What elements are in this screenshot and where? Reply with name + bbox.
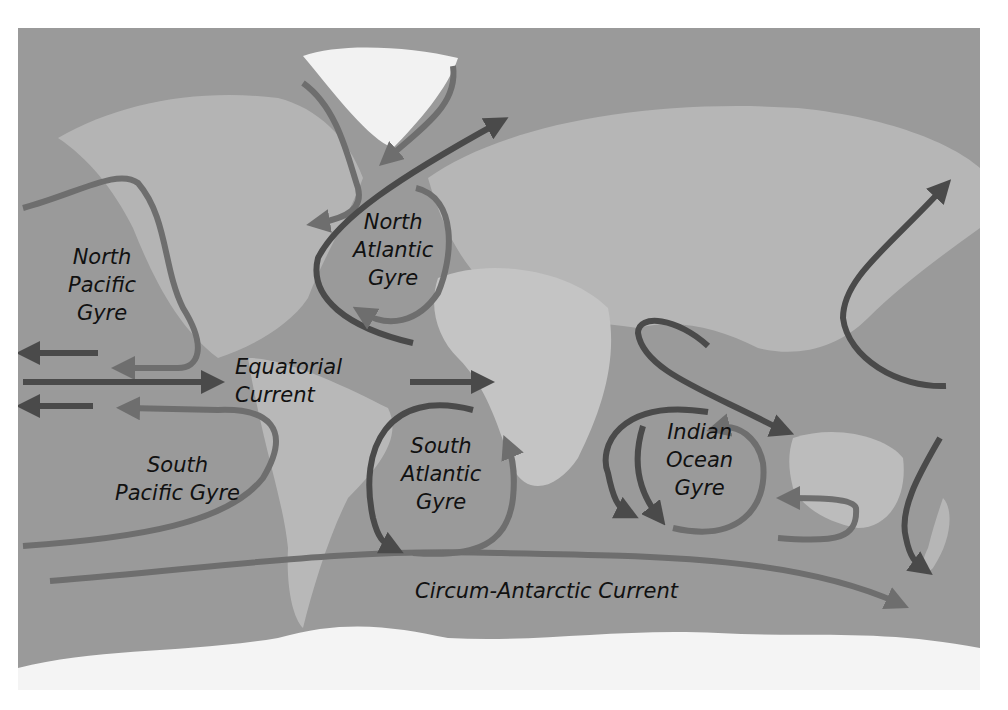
label-line: Gyre: [666, 474, 733, 502]
label-line: Gyre: [401, 488, 481, 516]
label-north-pacific-gyre: North Pacific Gyre: [68, 243, 136, 327]
label-line: North: [68, 243, 136, 271]
label-line: Atlantic: [401, 460, 481, 488]
label-circum-antarctic-current: Circum-Antarctic Current: [415, 577, 678, 605]
label-line: Equatorial: [235, 353, 342, 381]
label-line: Current: [235, 381, 342, 409]
label-line: Pacific: [68, 271, 136, 299]
label-equatorial-current: Equatorial Current: [235, 353, 342, 409]
label-line: Indian: [666, 418, 733, 446]
label-line: Ocean: [666, 446, 733, 474]
label-south-atlantic-gyre: South Atlantic Gyre: [401, 432, 481, 516]
label-line: Atlantic: [353, 236, 433, 264]
label-north-atlantic-gyre: North Atlantic Gyre: [353, 208, 433, 292]
label-line: North: [353, 208, 433, 236]
world-map: North Pacific Gyre North Atlantic Gyre E…: [18, 28, 980, 690]
label-line: Pacific Gyre: [115, 479, 240, 507]
label-line: South: [115, 451, 240, 479]
label-line: Gyre: [353, 264, 433, 292]
label-indian-ocean-gyre: Indian Ocean Gyre: [666, 418, 733, 502]
label-line: Gyre: [68, 299, 136, 327]
label-line: South: [401, 432, 481, 460]
label-south-pacific-gyre: South Pacific Gyre: [115, 451, 240, 507]
